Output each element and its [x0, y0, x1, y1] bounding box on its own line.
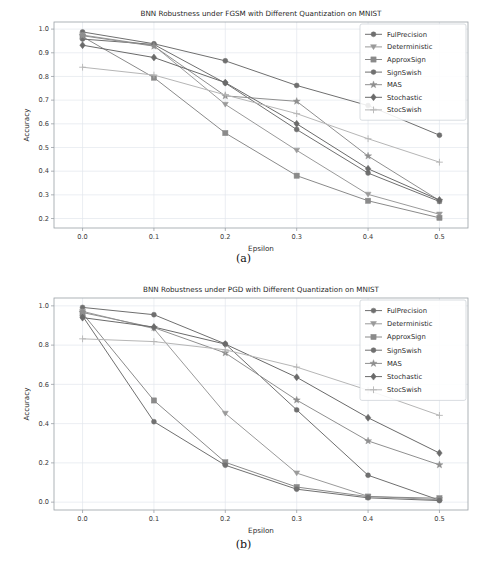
legend-marker-icon	[371, 334, 376, 339]
legend-marker-icon	[371, 348, 376, 353]
legend-item[interactable]: StocSwish	[365, 106, 422, 114]
x-tick-label: 0.1	[149, 515, 160, 523]
legend-item[interactable]: Stochastic	[365, 373, 422, 381]
x-tick-label: 0.5	[434, 515, 445, 523]
y-tick-label: 0.8	[39, 341, 50, 349]
legend-label: MAS	[387, 81, 402, 89]
data-point-marker	[366, 495, 371, 500]
y-tick-label: 0.2	[39, 215, 50, 223]
subfigure-caption-b: (b)	[0, 538, 487, 551]
x-tick-label: 0.4	[363, 515, 374, 523]
chart-a-svg: BNN Robustness under FGSM with Different…	[0, 0, 487, 275]
data-point-marker	[294, 487, 299, 492]
legend-item[interactable]: Stochastic	[365, 94, 422, 102]
data-point-marker	[437, 133, 442, 138]
x-tick-label: 0.5	[434, 233, 445, 241]
y-tick-label: 1.0	[39, 25, 50, 33]
y-tick-label: 0.2	[39, 459, 50, 467]
legend-label: MAS	[387, 360, 402, 368]
y-axis-label: Accuracy	[22, 387, 31, 421]
data-point-marker	[151, 419, 156, 424]
legend-label: FulPrecision	[387, 307, 427, 315]
chart-title: BNN Robustness under FGSM with Different…	[141, 9, 383, 18]
chart-panel-b: BNN Robustness under PGD with Different …	[0, 272, 487, 563]
legend-label: ApproxSign	[387, 56, 426, 64]
legend-item[interactable]: StocSwish	[365, 386, 422, 394]
legend-marker-icon	[371, 32, 376, 37]
chart-b-svg: BNN Robustness under PGD with Different …	[0, 272, 487, 563]
subfigure-caption-a: (a)	[0, 252, 487, 265]
legend-marker-icon	[371, 57, 376, 62]
x-tick-label: 0.1	[149, 233, 160, 241]
x-tick-label: 0.0	[77, 515, 88, 523]
chart-legend: FulPrecisionDeterministicApproxSignSignS…	[360, 300, 466, 400]
y-tick-label: 0.6	[39, 120, 50, 128]
data-point-marker	[223, 130, 228, 135]
data-point-marker	[437, 215, 442, 220]
data-point-marker	[365, 198, 370, 203]
legend-label: ApproxSign	[387, 333, 426, 341]
legend-label: StocSwish	[387, 106, 422, 114]
y-tick-label: 0.9	[39, 49, 50, 57]
y-axis-label: Accuracy	[22, 108, 31, 142]
data-point-marker	[151, 398, 156, 403]
legend-label: StocSwish	[387, 386, 422, 394]
y-tick-label: 1.0	[39, 302, 50, 310]
data-point-marker	[294, 407, 299, 412]
data-point-marker	[437, 498, 442, 503]
y-tick-label: 0.5	[39, 144, 50, 152]
data-point-marker	[151, 312, 156, 317]
legend-label: SignSwish	[387, 347, 421, 355]
x-tick-label: 0.2	[220, 515, 231, 523]
legend-label: Deterministic	[387, 43, 433, 51]
y-tick-label: 0.6	[39, 381, 50, 389]
legend-label: SignSwish	[387, 69, 421, 77]
legend-marker-icon	[371, 70, 376, 75]
chart-title: BNN Robustness under PGD with Different …	[143, 285, 380, 294]
chart-panel-a: BNN Robustness under FGSM with Different…	[0, 0, 487, 275]
legend-label: Stochastic	[387, 373, 422, 381]
y-tick-label: 0.7	[39, 96, 50, 104]
y-tick-label: 0.4	[39, 167, 50, 175]
data-point-marker	[294, 83, 299, 88]
x-tick-label: 0.4	[363, 233, 374, 241]
x-tick-label: 0.3	[291, 233, 302, 241]
chart-legend: FulPrecisionDeterministicApproxSignSignS…	[360, 24, 466, 120]
data-point-marker	[223, 463, 228, 468]
figure-container: BNN Robustness under FGSM with Different…	[0, 0, 487, 563]
data-point-marker	[294, 173, 299, 178]
x-tick-label: 0.3	[291, 515, 302, 523]
legend-label: FulPrecision	[387, 31, 427, 39]
legend-label: Stochastic	[387, 94, 422, 102]
legend-label: Deterministic	[387, 320, 433, 328]
y-tick-label: 0.3	[39, 191, 50, 199]
x-axis-label: Epsilon	[248, 526, 274, 535]
data-point-marker	[223, 58, 228, 63]
y-tick-label: 0.0	[39, 498, 50, 506]
y-tick-label: 0.4	[39, 420, 50, 428]
x-tick-label: 0.2	[220, 233, 231, 241]
data-point-marker	[366, 473, 371, 478]
y-tick-label: 0.8	[39, 73, 50, 81]
x-tick-label: 0.0	[77, 233, 88, 241]
data-point-marker	[294, 127, 299, 132]
legend-marker-icon	[371, 308, 376, 313]
